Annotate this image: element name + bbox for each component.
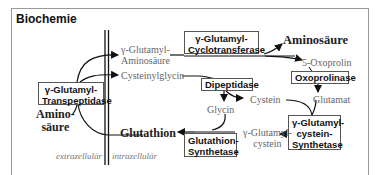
enzyme-oxoprolinase-label: Oxoprolinase — [295, 73, 345, 83]
enzyme-glutathione-synthetase: Glutathion- Synthetase — [184, 133, 237, 157]
metabolite-glutamylcysteine-line2: cystein — [243, 138, 292, 149]
metabolite-cysteinylglycine: Cysteinylglycin — [121, 70, 184, 81]
enzyme-cyclotransferase-line1: γ-Glutamyl- — [188, 33, 255, 44]
metabolite-glutamyl-aminoacid: γ-Glutamyl- Aminosäure — [121, 44, 170, 66]
enzyme-glutamylcysteine-synthetase: γ-Glutamyl- cystein- Synthetase — [288, 115, 341, 150]
metabolite-glutamate: Glutamat — [313, 94, 350, 105]
enzyme-gcs-line1: γ-Glutamyl- — [292, 117, 337, 128]
enzyme-transpeptidase: γ-Glutamyl- Transpeptidase — [38, 82, 104, 105]
metabolite-glutamyl-aminoacid-line2: Aminosäure — [121, 55, 170, 66]
label-extracellular: extrazellulär — [56, 151, 102, 161]
metabolite-glutamylcysteine: γ-Glutamyl- cystein — [243, 127, 292, 149]
enzyme-dipeptidase-label: Dipeptidase — [205, 80, 249, 90]
metabolite-glutamyl-aminoacid-line1: γ-Glutamyl- — [121, 44, 170, 55]
metabolite-aminoacid-left: Amino- säure — [36, 108, 75, 134]
label-intracellular: intrazellulär — [112, 151, 157, 161]
metabolite-oxoproline: 5-Oxoprolin — [302, 57, 351, 68]
metabolite-cysteine: Cystein — [250, 94, 281, 105]
enzyme-gs-line1: Glutathion- — [188, 135, 233, 146]
enzyme-dipeptidase: Dipeptidase — [201, 78, 253, 91]
metabolite-glutamylcysteine-line1: γ-Glutamyl- — [243, 127, 292, 138]
metabolite-glycine: Glycin — [207, 104, 234, 115]
metabolite-aminoacid-right: Aminosäure — [283, 34, 348, 46]
metabolite-aminoacid-left-line2: säure — [36, 121, 75, 134]
enzyme-cyclotransferase: γ-Glutamyl- Cyclotransferase — [184, 31, 259, 54]
enzyme-cyclotransferase-line2: Cyclotransferase — [188, 44, 255, 55]
metabolite-glutathione: Glutathion — [120, 127, 176, 139]
enzyme-gs-line2: Synthetase — [188, 146, 233, 157]
enzyme-transpeptidase-line1: γ-Glutamyl- — [42, 84, 100, 95]
enzyme-transpeptidase-line2: Transpeptidase — [42, 95, 100, 106]
enzyme-gcs-line2: cystein- — [292, 128, 337, 139]
enzyme-oxoprolinase: Oxoprolinase — [291, 71, 349, 84]
enzyme-gcs-line3: Synthetase — [292, 139, 337, 150]
